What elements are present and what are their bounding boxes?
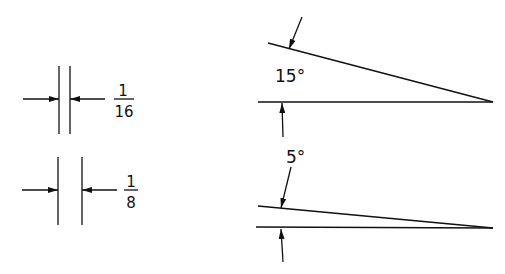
linear-dimension-1-8: 1 8 (22, 157, 138, 225)
fraction-numerator: 1 (126, 173, 136, 191)
angle-label: 5° (286, 147, 305, 167)
arrow-up-pointing-icon (282, 103, 283, 137)
linear-dimension-1-16: 1 16 (23, 66, 134, 134)
angle-label: 15° (275, 66, 305, 86)
angular-dimension-5: 5° (256, 147, 493, 262)
baseline (256, 227, 493, 228)
fraction-denominator: 16 (114, 103, 133, 121)
angled-line (258, 206, 493, 228)
fraction-denominator: 8 (126, 194, 136, 212)
fraction-numerator: 1 (118, 82, 128, 100)
arrow-up-pointing-icon (281, 229, 283, 262)
dimensioning-drawing: 1 16 1 8 15° 5° (0, 0, 505, 274)
arrow-down-pointing-icon (281, 167, 291, 208)
angular-dimension-15: 15° (258, 17, 493, 137)
arrow-down-pointing-icon (289, 17, 302, 49)
